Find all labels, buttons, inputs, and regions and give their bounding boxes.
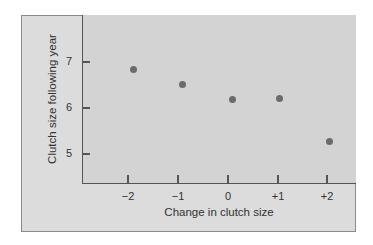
y-axis-label: Clutch size following year [45,29,59,169]
x-tick-plus-1 [277,175,279,184]
plot-area [82,15,356,184]
data-point-1 [130,66,137,73]
x-tick-minus-2 [127,175,129,184]
y-tick-6 [82,107,90,109]
data-point-3 [229,96,236,103]
data-point-4 [276,95,283,102]
data-point-2 [179,81,186,88]
x-tick-label-plus-2: +2 [312,190,342,202]
x-tick-label-plus-1: +1 [263,190,293,202]
x-tick-label-0: 0 [213,190,243,202]
x-tick-minus-1 [177,175,179,184]
x-tick-plus-2 [326,175,328,184]
y-tick-label-5: 5 [58,147,72,159]
x-tick-label-minus-1: −1 [163,190,193,202]
y-tick-5 [82,153,90,155]
x-tick-label-minus-2: −2 [113,190,143,202]
y-tick-7 [82,61,90,63]
y-tick-label-7: 7 [58,55,72,67]
y-tick-label-6: 6 [58,101,72,113]
x-axis-label: Change in clutch size [150,205,288,219]
x-tick-0 [227,175,229,184]
data-point-5 [326,138,333,145]
